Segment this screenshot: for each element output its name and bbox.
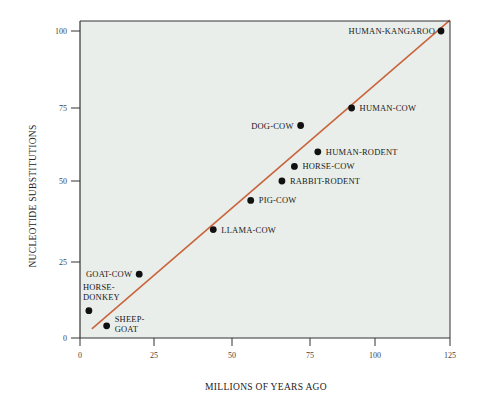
y-tick-label: 50 (59, 177, 67, 186)
point-marker-icon (438, 28, 445, 35)
y-axis-title: NUCLEOTIDE SUBSTITUTIONS (28, 124, 38, 267)
point-label: RABBIT-RODENT (290, 176, 361, 186)
x-tick-label: 100 (369, 351, 381, 360)
point-label: HUMAN-RODENT (326, 147, 398, 157)
data-point: RABBIT-RODENT (279, 176, 361, 186)
point-marker-icon (279, 178, 286, 185)
data-point: HUMAN-KANGAROO (349, 26, 445, 36)
data-point: HUMAN-RODENT (314, 147, 398, 157)
point-marker-icon (85, 307, 92, 314)
point-label: HORSE- (83, 282, 115, 292)
point-marker-icon (348, 105, 355, 112)
point-label: HUMAN-COW (360, 103, 417, 113)
scatter-chart: 0255075100125 0255075100 HORSE-DONKEYSHE… (0, 0, 480, 401)
x-axis-title: MILLIONS OF YEARS AGO (205, 382, 327, 392)
point-marker-icon (136, 271, 143, 278)
x-tick-label: 125 (444, 351, 456, 360)
y-axis-ticks: 0255075100 (55, 27, 80, 343)
x-axis-ticks: 0255075100125 (78, 338, 456, 360)
point-label: HORSE-COW (302, 161, 354, 171)
x-tick-label: 0 (78, 351, 82, 360)
point-label: DOG-COW (251, 121, 293, 131)
point-label: SHEEP- (115, 314, 145, 324)
y-tick-label: 25 (59, 258, 67, 267)
point-label: GOAT-COW (86, 269, 132, 279)
point-marker-icon (103, 322, 110, 329)
x-tick-label: 75 (306, 351, 314, 360)
point-marker-icon (247, 197, 254, 204)
point-marker-icon (314, 148, 321, 155)
point-label: HUMAN-KANGAROO (349, 26, 435, 36)
y-tick-label: 75 (59, 104, 67, 113)
point-label: LLAMA-COW (221, 225, 276, 235)
x-tick-label: 25 (150, 351, 158, 360)
y-tick-label: 0 (63, 334, 67, 343)
x-tick-label: 50 (228, 351, 236, 360)
point-marker-icon (210, 226, 217, 233)
point-label: DONKEY (83, 292, 120, 302)
y-tick-label: 100 (55, 27, 67, 36)
point-label: PIG-COW (259, 195, 297, 205)
point-marker-icon (291, 163, 298, 170)
point-label: GOAT (115, 324, 139, 334)
point-marker-icon (297, 122, 304, 129)
